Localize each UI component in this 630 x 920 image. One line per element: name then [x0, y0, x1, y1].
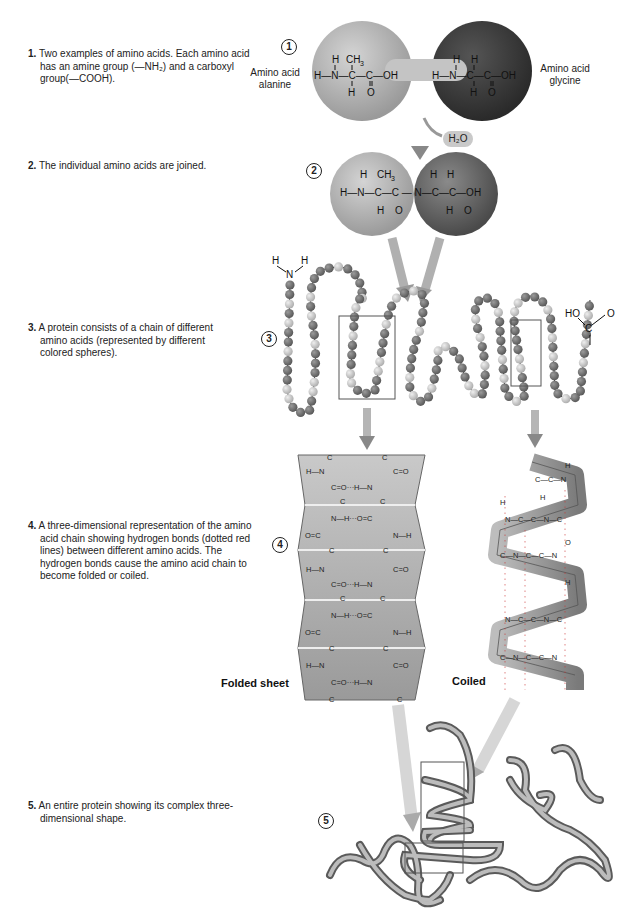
svg-text:C—N—C—C—N: C—N—C—C—N — [500, 653, 557, 662]
svg-text:3: 3 — [391, 175, 395, 182]
svg-text:H: H — [377, 205, 384, 216]
svg-text:C=O···H—N: C=O···H—N — [331, 483, 372, 492]
amino-acid-beads — [282, 262, 594, 417]
svg-text:H—N: H—N — [306, 467, 324, 476]
tertiary-protein-ribbon — [330, 725, 609, 903]
svg-text:C: C — [397, 695, 403, 704]
svg-text:O: O — [464, 205, 472, 216]
svg-text:CH: CH — [346, 54, 360, 65]
folded-sheet: CC H—NC=O C=O···H—N CC N—H···O=C O=CN—H … — [298, 453, 425, 704]
svg-text:3: 3 — [360, 60, 364, 67]
svg-text:C: C — [329, 546, 335, 555]
svg-text:C: C — [383, 546, 389, 555]
svg-text:C: C — [382, 453, 388, 462]
svg-text:C=O···H—N: C=O···H—N — [331, 580, 372, 589]
svg-text:N—H: N—H — [393, 531, 411, 540]
svg-text:H—N: H—N — [306, 565, 324, 574]
svg-text:N: N — [286, 269, 293, 280]
svg-text:H: H — [301, 255, 308, 266]
svg-text:H: H — [430, 169, 437, 180]
svg-text:H: H — [447, 169, 454, 180]
svg-text:HO: HO — [565, 308, 580, 319]
svg-text:N—C—C—N—C: N—C—C—N—C — [505, 515, 563, 524]
svg-text:H—N—C—C—OH: H—N—C—C—OH — [432, 70, 516, 81]
svg-text:H—N—C—C—OH: H—N—C—C—OH — [314, 70, 398, 81]
svg-text:O: O — [367, 87, 375, 98]
svg-text:O=C: O=C — [305, 628, 321, 637]
svg-text:H: H — [272, 255, 279, 266]
svg-text:C: C — [340, 594, 346, 603]
svg-text:O: O — [565, 538, 571, 547]
svg-text:C: C — [585, 323, 592, 334]
svg-text:C—C—N: C—C—N — [535, 475, 566, 484]
svg-text:C: C — [329, 644, 335, 653]
svg-text:H: H — [540, 493, 545, 502]
svg-text:O: O — [395, 205, 403, 216]
svg-text:O: O — [488, 87, 496, 98]
svg-text:O=C: O=C — [305, 531, 321, 540]
svg-text:C: C — [383, 644, 389, 653]
svg-text:C=O: C=O — [393, 467, 409, 476]
svg-text:N—H···O=C: N—H···O=C — [331, 611, 373, 620]
svg-text:H: H — [360, 169, 367, 180]
svg-text:H: H — [332, 54, 339, 65]
svg-text:N—C—C—N—C: N—C—C—N—C — [505, 615, 563, 624]
svg-text:C: C — [329, 695, 335, 704]
coiled-helix: C—C—NH HH N—C—C—N—C C—N—C—C—N N—C—C—N—C … — [497, 461, 578, 690]
svg-text:H: H — [348, 87, 355, 98]
svg-text:C: C — [340, 497, 346, 506]
svg-text:H—N: H—N — [306, 661, 324, 670]
svg-text:C: C — [380, 497, 386, 506]
svg-text:H—N—C—C — N—C—C—OH: H—N—C—C — N—C—C—OH — [340, 187, 481, 198]
protein-structure-diagram: HCH3 H—N—C—C—OH HO HH H—N—C—C—OH HO HCH3… — [0, 0, 630, 920]
svg-text:C: C — [380, 594, 386, 603]
svg-text:C=O: C=O — [393, 565, 409, 574]
svg-text:CH: CH — [377, 169, 391, 180]
svg-text:H: H — [453, 54, 460, 65]
svg-text:O: O — [607, 308, 615, 319]
svg-text:H: H — [471, 54, 478, 65]
svg-text:H: H — [470, 87, 477, 98]
svg-text:H: H — [446, 205, 453, 216]
svg-text:N—H···O=C: N—H···O=C — [331, 514, 373, 523]
svg-text:C=O···H—N: C=O···H—N — [331, 678, 372, 687]
svg-text:C=O: C=O — [393, 661, 409, 670]
svg-text:N—H: N—H — [393, 628, 411, 637]
svg-text:C: C — [327, 453, 333, 462]
svg-text:H: H — [565, 461, 570, 470]
svg-text:H: H — [565, 578, 570, 587]
svg-text:C—N—C—C—N: C—N—C—C—N — [500, 551, 557, 560]
